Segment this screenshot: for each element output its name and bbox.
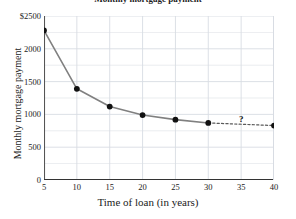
y-tick-label: 2000 bbox=[3, 44, 41, 54]
y-tick-label: 1000 bbox=[3, 109, 41, 119]
plot-svg bbox=[44, 16, 274, 180]
x-tick-label: 25 bbox=[160, 182, 190, 192]
y-tick-label: $2500 bbox=[3, 11, 41, 21]
x-axis-title: Time of loan (in years) bbox=[0, 196, 296, 208]
y-axis-tick-labels: 0500100015002000$2500 bbox=[0, 16, 41, 180]
data-series-layer bbox=[44, 30, 274, 125]
x-axis-tick-labels: 510152025303540 bbox=[44, 182, 274, 196]
x-tick-label: 30 bbox=[193, 182, 223, 192]
grid-minor-lines bbox=[44, 32, 274, 163]
y-tick-label: 1500 bbox=[3, 77, 41, 87]
chart-title: Monthly mortgage payment bbox=[0, 0, 296, 4]
x-tick-label: 20 bbox=[128, 182, 158, 192]
x-tick-label: 40 bbox=[259, 182, 289, 192]
plot-area: ? bbox=[44, 16, 274, 180]
y-tick-label: 500 bbox=[3, 142, 41, 152]
chart-figure: Monthly mortgage payment Monthly mortgag… bbox=[0, 0, 296, 219]
annotation-question-mark: ? bbox=[239, 114, 244, 124]
x-tick-label: 35 bbox=[226, 182, 256, 192]
x-tick-label: 5 bbox=[29, 182, 59, 192]
x-tick-label: 10 bbox=[62, 182, 92, 192]
x-tick-label: 15 bbox=[95, 182, 125, 192]
